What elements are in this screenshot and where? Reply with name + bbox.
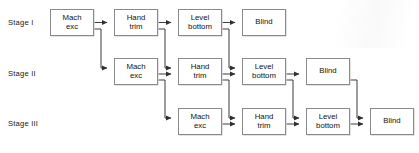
node-label: Level bottom	[316, 113, 340, 130]
node-label: Hand trim	[255, 113, 274, 130]
stage-label-1: Stage I	[8, 18, 33, 27]
node-s2-blind[interactable]: Blind	[306, 58, 350, 85]
node-label: Blind	[255, 18, 272, 26]
edge-s1-level-to-s2-level	[222, 29, 235, 68]
edge-s2-blind-to-s3-blind	[350, 80, 363, 118]
node-s1-mach-exc[interactable]: Mach exc	[50, 9, 94, 36]
edge-s1-hand-to-s2-hand	[158, 29, 171, 68]
edge-s2-hand-to-s3-hand	[222, 80, 235, 118]
node-label: Mach exc	[126, 63, 145, 80]
node-label: Blind	[319, 67, 336, 75]
node-s3-hand-trim[interactable]: Hand trim	[242, 108, 286, 135]
node-s2-hand-trim[interactable]: Hand trim	[178, 58, 222, 85]
stage-label-3: Stage III	[8, 119, 38, 128]
node-label: Hand trim	[191, 63, 210, 80]
node-s3-blind[interactable]: Blind	[370, 108, 414, 135]
node-s1-blind[interactable]: Blind	[242, 9, 286, 36]
node-s2-level-bottom[interactable]: Level bottom	[242, 58, 286, 85]
node-label: Mach exc	[190, 113, 209, 130]
node-label: Hand trim	[127, 14, 146, 31]
node-label: Mach exc	[62, 14, 81, 31]
flowchart-diagram: Stage I Stage II Stage III Mach exc Hand…	[0, 0, 419, 153]
node-s3-level-bottom[interactable]: Level bottom	[306, 108, 350, 135]
node-s1-level-bottom[interactable]: Level bottom	[178, 9, 222, 36]
edge-s2-mach-to-s3-mach	[158, 80, 171, 118]
edge-s1-mach-to-s2-mach	[94, 29, 107, 68]
node-s1-hand-trim[interactable]: Hand trim	[114, 9, 158, 36]
edge-s2-level-to-s3-level	[286, 80, 299, 118]
node-label: Blind	[383, 117, 400, 125]
node-s2-mach-exc[interactable]: Mach exc	[114, 58, 158, 85]
node-s3-mach-exc[interactable]: Mach exc	[178, 108, 222, 135]
node-label: Level bottom	[252, 63, 276, 80]
node-label: Level bottom	[188, 14, 212, 31]
stage-label-2: Stage II	[8, 69, 36, 78]
